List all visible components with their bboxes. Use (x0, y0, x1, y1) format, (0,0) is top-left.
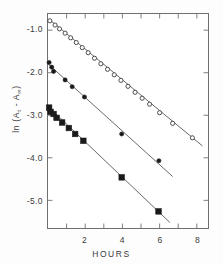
x-tick-label-1: 2 (76, 235, 94, 245)
fit-line-filled-squares (48, 107, 169, 223)
data-point-filled-squares-3 (54, 115, 60, 121)
data-point-open-circles-12 (119, 78, 123, 82)
data-point-filled-squares-4 (59, 120, 65, 126)
data-point-open-circles-9 (99, 62, 103, 66)
x-tick-label-5: 6 (151, 235, 169, 245)
y-axis-title: ln (At - A∞) (11, 49, 21, 169)
x-axis-title: HOURS (0, 249, 223, 259)
data-point-open-circles-19 (190, 136, 194, 140)
y-axis-title-sub-t: t (15, 109, 22, 111)
data-point-filled-circles-7 (157, 159, 161, 163)
data-point-open-circles-5 (74, 40, 78, 44)
tick-marks-group (48, 14, 208, 228)
data-point-open-circles-16 (148, 102, 152, 106)
data-point-open-circles-14 (133, 90, 137, 94)
data-point-filled-squares-7 (81, 138, 87, 144)
data-point-filled-circles-2 (52, 69, 56, 73)
data-point-filled-circles-4 (70, 85, 74, 89)
data-point-open-circles-2 (57, 27, 61, 31)
y-tick-label-0: -1.0 (13, 24, 43, 34)
data-point-open-circles-10 (105, 67, 109, 71)
data-point-open-circles-8 (92, 56, 96, 60)
data-point-open-circles-6 (80, 46, 84, 50)
data-point-filled-circles-0 (47, 60, 51, 64)
data-point-open-circles-17 (158, 111, 162, 115)
y-axis-title-mid: - A (11, 94, 21, 110)
data-point-filled-squares-8 (119, 175, 125, 181)
y-tick-label-4: -5.0 (13, 196, 43, 206)
data-point-filled-squares-9 (156, 209, 162, 215)
data-point-filled-squares-6 (72, 131, 78, 137)
data-point-filled-circles-6 (120, 132, 124, 136)
plot-area (47, 13, 209, 229)
data-point-filled-circles-1 (50, 65, 54, 69)
data-point-open-circles-13 (126, 84, 130, 88)
x-tick-label-3: 4 (113, 235, 131, 245)
data-point-open-circles-11 (112, 73, 116, 77)
data-point-filled-squares-5 (66, 125, 72, 131)
data-point-open-circles-3 (63, 31, 67, 35)
data-point-filled-circles-3 (63, 78, 67, 82)
series-filled-squares (46, 105, 170, 223)
figure-container: -1.0-2.0-3.0-4.0-5.0 2468 HOURS ln (At -… (0, 0, 223, 265)
data-point-filled-circles-5 (82, 95, 86, 99)
data-point-open-circles-18 (171, 121, 175, 125)
y-axis-title-sub-inf: ∞ (15, 89, 22, 94)
x-tick-label-7: 8 (189, 235, 207, 245)
data-point-open-circles-0 (48, 19, 52, 23)
data-point-open-circles-15 (140, 96, 144, 100)
y-axis-title-prefix: ln (A (11, 112, 21, 133)
series-filled-circles (47, 60, 173, 176)
chart-canvas (48, 14, 208, 228)
data-point-open-circles-4 (69, 36, 73, 40)
data-point-open-circles-1 (53, 23, 57, 27)
data-point-open-circles-7 (86, 51, 90, 55)
